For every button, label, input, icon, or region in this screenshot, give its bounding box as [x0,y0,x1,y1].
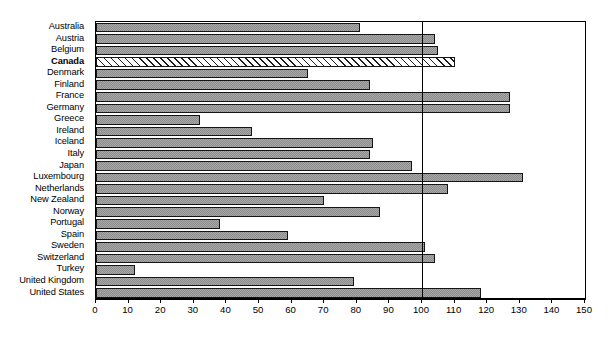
category-label-ireland: Ireland [0,125,88,137]
bar-portugal [96,219,220,229]
bar-belgium [96,46,438,56]
axis-tick-label: 50 [243,304,273,315]
bar-france [96,92,510,102]
axis-tick-label: 10 [113,304,143,315]
bar-sweden [96,242,425,252]
category-label-united-kingdom: United Kingdom [0,275,88,287]
bar-row [96,68,585,80]
category-label-austria: Austria [0,33,88,45]
axis-tick [193,298,194,303]
axis-tick [584,298,585,303]
bar-iceland [96,138,373,148]
bar-finland [96,80,370,90]
bar-row [96,241,585,253]
bar-row [96,91,585,103]
bar-row [96,114,585,126]
category-label-france: France [0,90,88,102]
bar-turkey [96,265,135,275]
bar-norway [96,207,380,217]
bar-row [96,80,585,92]
category-label-spain: Spain [0,229,88,241]
category-label-iceland: Iceland [0,136,88,148]
axis-tick-label: 80 [341,304,371,315]
axis-tick [160,298,161,303]
bar-netherlands [96,184,448,194]
axis-tick [388,298,389,303]
axis-tick [454,298,455,303]
bar-row [96,195,585,207]
axis-tick [486,298,487,303]
bar-switzerland [96,254,435,264]
axis-tick-label: 60 [276,304,306,315]
value-axis: 0102030405060708090100110120130140150 [95,298,584,299]
reference-line-100 [422,22,423,299]
bar-row [96,149,585,161]
axis-tick-label: 140 [536,304,566,315]
bar-germany [96,104,510,114]
bar-row [96,34,585,46]
bar-row [96,103,585,115]
category-label-portugal: Portugal [0,217,88,229]
bar-row [96,137,585,149]
axis-tick [225,298,226,303]
bar-row [96,161,585,173]
category-label-denmark: Denmark [0,67,88,79]
category-label-australia: Australia [0,21,88,33]
bar-ireland [96,127,252,137]
category-label-germany: Germany [0,102,88,114]
category-label-luxembourg: Luxembourg [0,171,88,183]
category-label-turkey: Turkey [0,263,88,275]
axis-tick-label: 70 [308,304,338,315]
category-label-belgium: Belgium [0,44,88,56]
bar-row [96,22,585,34]
axis-tick [356,298,357,303]
bar-united-kingdom [96,277,354,287]
bar-greece [96,115,200,125]
axis-tick-label: 130 [504,304,534,315]
axis-tick [95,298,96,303]
category-label-italy: Italy [0,148,88,160]
axis-tick [323,298,324,303]
category-label-new-zealand: New Zealand [0,194,88,206]
category-label-sweden: Sweden [0,240,88,252]
axis-tick-label: 150 [569,304,599,315]
bar-luxembourg [96,173,523,183]
axis-tick [519,298,520,303]
bar-row [96,218,585,230]
category-axis-labels: AustraliaAustriaBelgiumCanadaDenmarkFinl… [0,21,88,298]
category-label-norway: Norway [0,206,88,218]
category-label-switzerland: Switzerland [0,252,88,264]
bar-rows [96,22,585,299]
bar-canada [96,57,455,67]
axis-tick-label: 120 [471,304,501,315]
axis-tick [291,298,292,303]
axis-tick [128,298,129,303]
bar-row [96,264,585,276]
bar-japan [96,161,412,171]
category-label-finland: Finland [0,79,88,91]
axis-tick-label: 110 [439,304,469,315]
bar-row [96,126,585,138]
horizontal-bar-chart: AustraliaAustriaBelgiumCanadaDenmarkFinl… [0,0,611,349]
bar-new-zealand [96,196,324,206]
bar-row [96,276,585,288]
axis-tick-label: 90 [373,304,403,315]
bar-row [96,172,585,184]
bar-row [96,45,585,57]
bar-row [96,207,585,219]
category-label-netherlands: Netherlands [0,183,88,195]
axis-tick [551,298,552,303]
category-label-japan: Japan [0,160,88,172]
bar-row [96,253,585,265]
bar-row [96,57,585,69]
bar-row [96,184,585,196]
axis-tick-label: 40 [210,304,240,315]
category-label-canada: Canada [0,56,88,68]
axis-tick-label: 30 [178,304,208,315]
bar-australia [96,23,360,33]
axis-tick-label: 100 [406,304,436,315]
axis-tick [421,298,422,303]
axis-tick-label: 0 [80,304,110,315]
category-label-greece: Greece [0,113,88,125]
axis-tick-label: 20 [145,304,175,315]
